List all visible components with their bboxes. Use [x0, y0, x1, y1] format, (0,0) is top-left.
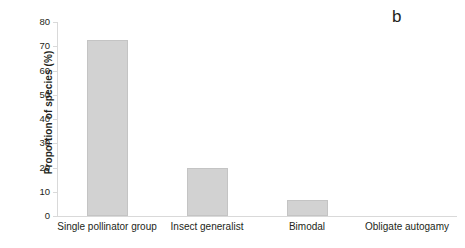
y-axis-line — [57, 22, 58, 216]
x-category-label-0: Single pollinator group — [57, 221, 157, 233]
y-tick-label: 30 — [39, 139, 50, 149]
y-tick-mark — [53, 95, 57, 96]
x-category-label-1: Insect generalist — [171, 221, 244, 233]
y-tick-mark — [53, 119, 57, 120]
plot-area: 01020304050607080 Single pollinator grou… — [57, 22, 457, 216]
y-tick-label: 0 — [45, 211, 50, 221]
y-tick-label: 50 — [39, 90, 50, 100]
y-tick-mark — [53, 192, 57, 193]
y-tick-label: 20 — [39, 163, 50, 173]
bar-1 — [187, 168, 228, 216]
bar-chart-figure: b Proportion of species (%) 010203040506… — [0, 0, 465, 248]
y-tick-label: 10 — [39, 187, 50, 197]
y-tick-label: 60 — [39, 66, 50, 76]
x-axis-line — [57, 216, 457, 217]
y-tick-mark — [53, 168, 57, 169]
y-tick-label: 40 — [39, 114, 50, 124]
y-tick-mark — [53, 143, 57, 144]
x-category-label-3: Obligate autogamy — [365, 221, 449, 233]
bar-2 — [287, 200, 328, 216]
x-category-label-2: Bimodal — [289, 221, 325, 233]
y-tick-mark — [53, 22, 57, 23]
bar-0 — [87, 40, 128, 216]
y-tick-mark — [53, 216, 57, 217]
y-tick-label: 70 — [39, 42, 50, 52]
y-tick-mark — [53, 46, 57, 47]
y-tick-mark — [53, 71, 57, 72]
y-tick-label: 80 — [39, 17, 50, 27]
